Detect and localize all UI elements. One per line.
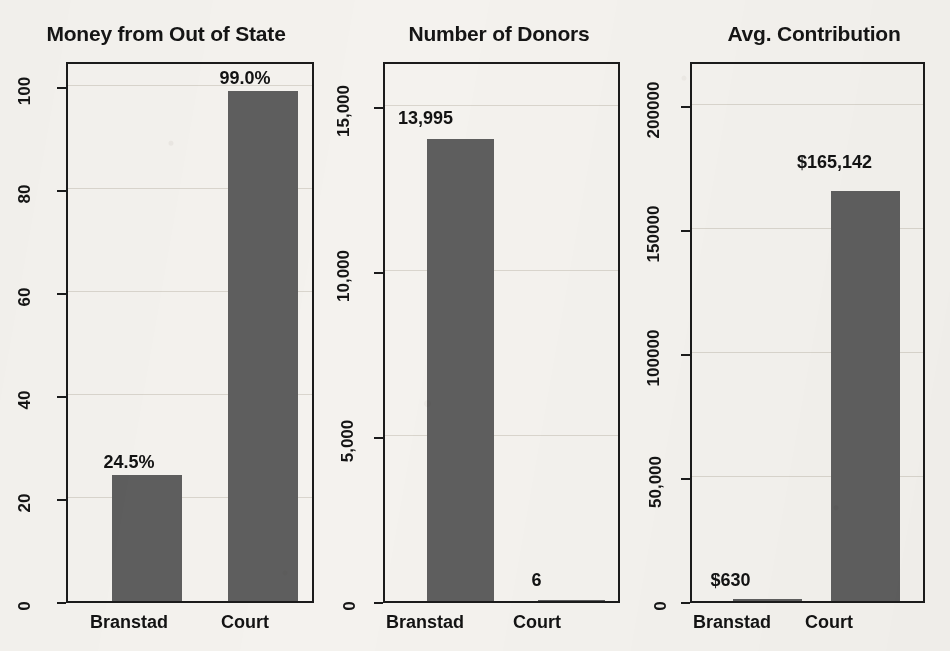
ytick-label-80: 80 <box>15 164 35 224</box>
ytick-mark-40 <box>57 396 66 398</box>
ytick-label-60: 60 <box>15 267 35 327</box>
bar-court <box>228 91 298 601</box>
ytick-mark-60 <box>57 293 66 295</box>
ytick-label-150000: 150000 <box>644 194 664 274</box>
plot-area-money-from-out-of-state <box>66 62 314 603</box>
ytick-label-200000: 200000 <box>644 70 664 150</box>
xtick-label-court: Court <box>749 612 909 633</box>
bar-court <box>831 191 900 601</box>
ytick-label-100: 100 <box>15 61 35 121</box>
xtick-label-court: Court <box>457 612 617 633</box>
panel-title-avg-contribution: Avg. Contribution <box>688 22 940 46</box>
bar-value-court: $165,142 <box>764 152 905 173</box>
gridline-200000 <box>692 104 923 105</box>
ytick-mark-0 <box>681 602 690 604</box>
panel-money-from-out-of-state: Money from Out of State 100 80 60 40 20 … <box>0 0 320 651</box>
bar-court <box>538 600 605 601</box>
ytick-mark-80 <box>57 190 66 192</box>
ytick-label-40: 40 <box>15 370 35 430</box>
ytick-mark-0 <box>57 602 66 604</box>
bar-branstad <box>733 599 802 601</box>
ytick-label-100000: 100000 <box>644 318 664 398</box>
bar-branstad <box>427 139 494 601</box>
ytick-mark-0 <box>374 602 383 604</box>
ytick-label-15000: 15,000 <box>334 75 354 147</box>
ytick-mark-20 <box>57 499 66 501</box>
ytick-label-50000: 50,000 <box>646 442 666 522</box>
ytick-mark-100 <box>57 87 66 89</box>
ytick-mark-150000 <box>681 230 690 232</box>
gridline-15000 <box>385 105 618 106</box>
three-panel-bar-chart-figure: Money from Out of State 100 80 60 40 20 … <box>0 0 950 651</box>
bar-value-branstad: 24.5% <box>65 452 193 473</box>
ytick-label-0: 0 <box>15 576 35 636</box>
ytick-mark-10000 <box>374 272 383 274</box>
ytick-mark-5000 <box>374 437 383 439</box>
plot-area-avg-contribution <box>690 62 925 603</box>
ytick-mark-50000 <box>681 478 690 480</box>
ytick-label-10000: 10,000 <box>334 240 354 312</box>
panel-avg-contribution: Avg. Contribution 200000 150000 100000 5… <box>630 0 950 651</box>
gridline-5000 <box>385 435 618 436</box>
ytick-mark-200000 <box>681 106 690 108</box>
gridline-10000 <box>385 270 618 271</box>
plot-area-number-of-donors <box>383 62 620 603</box>
panel-title-number-of-donors: Number of Donors <box>368 22 630 46</box>
bar-value-branstad: 13,995 <box>362 108 489 129</box>
bar-branstad <box>112 475 182 601</box>
bar-value-branstad: $630 <box>668 570 793 591</box>
panel-title-money-from-out-of-state: Money from Out of State <box>12 22 320 46</box>
ytick-label-5000: 5,000 <box>338 405 358 477</box>
panel-number-of-donors: Number of Donors 15,000 10,000 5,000 0 1… <box>320 0 630 651</box>
bar-value-court: 6 <box>473 570 600 591</box>
bar-value-court: 99.0% <box>181 68 309 89</box>
xtick-label-court: Court <box>162 612 328 633</box>
ytick-label-20: 20 <box>15 473 35 533</box>
ytick-mark-100000 <box>681 354 690 356</box>
